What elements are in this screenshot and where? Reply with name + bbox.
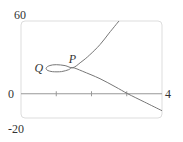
chart: 60 -20 0 4 P Q — [0, 0, 183, 142]
parametric-curve — [46, 21, 162, 111]
point-label-p: P — [68, 52, 77, 66]
y-bottom-label: -20 — [8, 122, 24, 136]
point-label-q: Q — [34, 61, 43, 75]
y-top-label: 60 — [14, 8, 26, 22]
x-right-label: 4 — [165, 87, 171, 101]
x-origin-label: 0 — [8, 87, 14, 101]
